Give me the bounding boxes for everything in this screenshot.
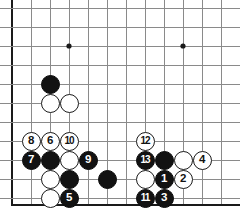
- stone-move-6[interactable]: 6: [41, 132, 60, 151]
- stone-move-number: 2: [180, 173, 186, 185]
- stone-move-number: 10: [64, 136, 73, 146]
- stone-white-w-upper-left-2[interactable]: [60, 94, 79, 113]
- board-grid: [0, 0, 240, 222]
- stone-move-8[interactable]: 8: [22, 132, 41, 151]
- stone-white-w-left-bottom[interactable]: [41, 189, 60, 208]
- stone-white-w-right-mid[interactable]: [174, 151, 193, 170]
- stone-move-4[interactable]: 4: [193, 151, 212, 170]
- stone-black-b-left-low[interactable]: [60, 170, 79, 189]
- stone-move-number: 8: [28, 135, 34, 147]
- stone-white-w-left-mid[interactable]: [60, 151, 79, 170]
- go-board-diagram: 86101279134125113: [0, 0, 240, 222]
- stone-move-number: 7: [28, 154, 34, 166]
- stone-move-11[interactable]: 11: [136, 189, 155, 208]
- stone-black-b-upper-left[interactable]: [41, 75, 60, 94]
- stone-move-5[interactable]: 5: [60, 189, 79, 208]
- stone-black-b-right-mid[interactable]: [155, 151, 174, 170]
- stone-move-12[interactable]: 12: [136, 132, 155, 151]
- stone-move-13[interactable]: 13: [136, 151, 155, 170]
- stone-move-1[interactable]: 1: [155, 170, 174, 189]
- stone-white-w-right-low[interactable]: [136, 170, 155, 189]
- stone-move-3[interactable]: 3: [155, 189, 174, 208]
- stone-black-b-center-low[interactable]: [98, 170, 117, 189]
- stone-move-7[interactable]: 7: [22, 151, 41, 170]
- stone-move-number: 6: [47, 135, 53, 147]
- stone-black-b-left-mid[interactable]: [41, 151, 60, 170]
- go-board-surface[interactable]: 86101279134125113: [0, 0, 240, 222]
- star-point: [180, 43, 185, 48]
- stone-move-number: 1: [161, 173, 167, 185]
- stone-move-number: 3: [161, 192, 167, 204]
- stone-move-number: 13: [140, 155, 149, 165]
- stone-move-number: 11: [141, 193, 150, 203]
- stone-move-9[interactable]: 9: [79, 151, 98, 170]
- stone-move-number: 9: [85, 154, 91, 166]
- stone-move-number: 12: [140, 136, 149, 146]
- stone-move-2[interactable]: 2: [174, 170, 193, 189]
- stone-white-w-upper-left-1[interactable]: [41, 94, 60, 113]
- star-point: [66, 43, 71, 48]
- stone-white-w-left-low[interactable]: [41, 170, 60, 189]
- stone-move-number: 5: [66, 192, 72, 204]
- stone-move-10[interactable]: 10: [60, 132, 79, 151]
- stone-move-number: 4: [199, 154, 205, 166]
